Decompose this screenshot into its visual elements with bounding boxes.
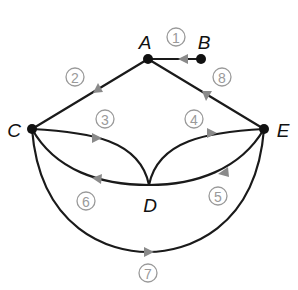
svg-text:2: 2 <box>71 70 79 86</box>
arrow-icon-edge-3 <box>92 133 102 143</box>
vertex-label-b: B <box>198 32 211 53</box>
arrow-icon-edge-4 <box>207 128 217 138</box>
vertex-e <box>259 124 269 134</box>
edge-6-d-to-c <box>32 129 149 185</box>
route-diagram: A B C D E 1 2 3 4 5 6 7 8 <box>0 0 298 290</box>
svg-text:3: 3 <box>101 112 109 128</box>
arrow-icon-edge-7 <box>144 247 154 257</box>
edge-label-3: 3 <box>96 110 114 128</box>
svg-text:1: 1 <box>172 30 180 46</box>
arrow-icon-edge-1 <box>178 54 188 64</box>
vertex-label-c: C <box>7 120 21 141</box>
svg-text:8: 8 <box>218 70 226 86</box>
svg-text:4: 4 <box>190 112 198 128</box>
vertex-label-e: E <box>277 120 290 141</box>
vertex-b <box>196 54 206 64</box>
edge-label-7: 7 <box>139 264 157 282</box>
vertex-label-a: A <box>138 32 152 53</box>
edge-5-e-to-d <box>149 129 264 185</box>
edge-label-6: 6 <box>77 192 95 210</box>
svg-text:7: 7 <box>144 266 152 282</box>
edge-label-2: 2 <box>66 68 84 86</box>
edge-label-4: 4 <box>185 110 203 128</box>
arrow-icon-edge-6 <box>92 174 102 184</box>
vertex-a <box>143 54 153 64</box>
edge-7-c-to-e <box>32 129 264 252</box>
vertex-label-d: D <box>143 195 157 216</box>
edge-label-1: 1 <box>167 28 185 46</box>
edge-label-8: 8 <box>213 68 231 86</box>
edge-label-5: 5 <box>209 187 227 205</box>
svg-text:5: 5 <box>214 189 222 205</box>
edge-2-a-to-c <box>32 59 148 129</box>
vertex-c <box>27 124 37 134</box>
svg-text:6: 6 <box>82 194 90 210</box>
